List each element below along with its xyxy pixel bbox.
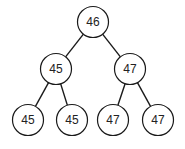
tree-edge (103, 34, 121, 57)
node-label: 46 (86, 15, 100, 29)
tree-node: 47 (115, 54, 146, 85)
tree-node: 45 (57, 105, 88, 136)
tree-edge (137, 83, 150, 107)
node-label: 47 (106, 113, 120, 127)
node-label: 47 (151, 113, 165, 127)
tree-node: 45 (41, 54, 72, 85)
tree-edge (66, 34, 84, 57)
node-label: 45 (49, 62, 63, 76)
tree-nodes: 46454745454747 (13, 7, 174, 136)
tree-node: 47 (98, 105, 129, 136)
tree-edge (118, 84, 125, 106)
tree-node: 46 (78, 7, 109, 38)
tree-edge (61, 84, 68, 105)
tree-edge (35, 83, 48, 107)
tree-node: 45 (13, 105, 44, 136)
node-label: 45 (21, 113, 35, 127)
node-label: 45 (65, 113, 79, 127)
tree-diagram: 46454745454747 (0, 0, 185, 149)
node-label: 47 (123, 62, 137, 76)
tree-node: 47 (143, 105, 174, 136)
